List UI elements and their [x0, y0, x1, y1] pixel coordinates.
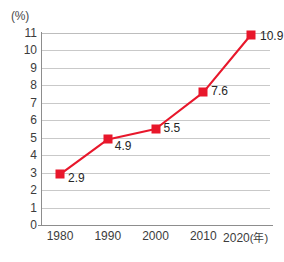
x-axis-unit-label: (年) — [250, 232, 268, 244]
gridline — [41, 138, 270, 139]
x-tick-label: 1990 — [94, 229, 121, 243]
x-tick-label: 2000 — [142, 229, 169, 243]
data-point-marker — [151, 125, 160, 134]
data-point-marker — [103, 135, 112, 144]
y-tick-label: 4 — [3, 148, 37, 162]
y-tick-label: 8 — [3, 78, 37, 92]
data-point-label: 7.6 — [211, 84, 228, 98]
y-tick-label: 9 — [3, 61, 37, 75]
data-point-label: 4.9 — [115, 139, 132, 153]
y-tick-label: 6 — [3, 113, 37, 127]
gridline — [41, 155, 270, 156]
x-tick-label: 2020(年) — [223, 229, 268, 245]
gridline — [41, 120, 270, 121]
y-axis-line — [41, 32, 42, 226]
data-point-marker — [247, 30, 256, 39]
data-point-marker — [56, 170, 65, 179]
data-point-label: 5.5 — [164, 121, 181, 135]
y-tick-label: 11 — [3, 26, 37, 40]
data-point-marker — [199, 88, 208, 97]
gridline — [41, 190, 270, 191]
gridline — [41, 85, 270, 86]
gridline — [41, 68, 270, 69]
y-axis-tick-labels: 11109876543210 — [0, 0, 37, 262]
x-axis-tick-labels: 19801990200020102020(年) — [0, 229, 284, 255]
y-tick-label: 3 — [3, 166, 37, 180]
y-tick-label: 7 — [3, 96, 37, 110]
x-axis-line — [38, 225, 273, 226]
data-point-label: 10.9 — [260, 29, 283, 43]
y-tick-label: 5 — [3, 131, 37, 145]
data-point-label: 2.9 — [68, 171, 85, 185]
chart-screenshot: (%) 11109876543210 19801990200020102020(… — [0, 0, 284, 262]
y-tick-label: 1 — [3, 201, 37, 215]
gridline — [41, 103, 270, 104]
x-tick-label: 2010 — [190, 229, 217, 243]
x-tick-label: 1980 — [47, 229, 74, 243]
gridline — [41, 208, 270, 209]
gridline — [41, 33, 270, 34]
gridline — [41, 50, 270, 51]
y-tick-label: 2 — [3, 183, 37, 197]
y-tick-label: 10 — [3, 43, 37, 57]
